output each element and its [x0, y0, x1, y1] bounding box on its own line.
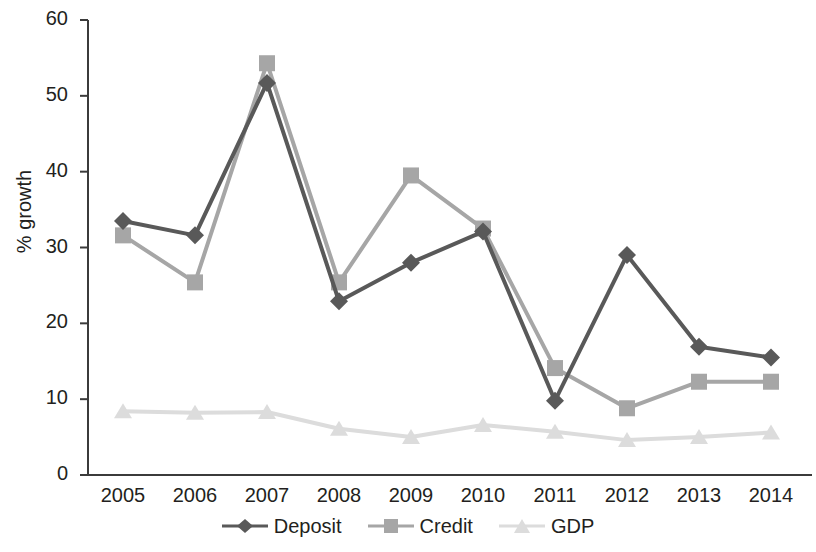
x-axis-tick-label: 2005: [88, 484, 158, 507]
data-point-marker: [187, 274, 203, 290]
x-axis-tick-label: 2014: [736, 484, 806, 507]
legend-item-deposit: Deposit: [222, 516, 342, 536]
series-credit: [115, 55, 779, 416]
y-axis-tick-label: 10: [22, 386, 68, 409]
data-point-marker: [547, 360, 563, 376]
line-chart: % growth Deposit Credit GDP 010203040506…: [0, 0, 816, 552]
data-point-marker: [691, 374, 707, 390]
x-axis-tick-label: 2007: [232, 484, 302, 507]
data-point-marker: [763, 374, 779, 390]
chart-legend: Deposit Credit GDP: [0, 516, 816, 536]
x-axis-tick-label: 2008: [304, 484, 374, 507]
data-point-marker: [403, 167, 419, 183]
y-axis-tick-label: 20: [22, 310, 68, 333]
data-point-marker: [259, 55, 275, 71]
x-axis-tick-label: 2006: [160, 484, 230, 507]
legend-label-gdp: GDP: [551, 516, 594, 536]
x-axis-tick-label: 2011: [520, 484, 590, 507]
plot-area: [0, 0, 816, 552]
legend-item-gdp: GDP: [499, 516, 594, 536]
y-axis-tick-label: 60: [22, 7, 68, 30]
x-axis-tick-label: 2010: [448, 484, 518, 507]
legend-item-credit: Credit: [368, 516, 473, 536]
y-axis-tick-label: 50: [22, 83, 68, 106]
triangle-marker-icon: [499, 517, 545, 535]
legend-label-credit: Credit: [420, 516, 473, 536]
legend-label-deposit: Deposit: [274, 516, 342, 536]
data-point-marker: [762, 348, 780, 366]
data-point-marker: [330, 292, 348, 310]
x-axis-tick-label: 2013: [664, 484, 734, 507]
x-axis-tick-label: 2012: [592, 484, 662, 507]
y-axis-tick-label: 40: [22, 159, 68, 182]
square-marker-icon: [368, 517, 414, 535]
y-axis-tick-label: 30: [22, 235, 68, 258]
series-line: [123, 83, 771, 401]
data-point-marker: [619, 400, 635, 416]
series-deposit: [114, 74, 780, 410]
data-point-marker: [114, 212, 132, 230]
y-axis-tick-label: 0: [22, 462, 68, 485]
data-point-marker: [186, 226, 204, 244]
series-gdp: [114, 403, 780, 447]
x-axis-tick-label: 2009: [376, 484, 446, 507]
series-line: [123, 411, 771, 440]
data-point-marker: [546, 392, 564, 410]
diamond-marker-icon: [222, 517, 268, 535]
series-line: [123, 63, 771, 408]
data-point-marker: [402, 254, 420, 272]
